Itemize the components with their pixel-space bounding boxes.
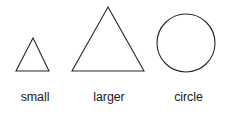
circle-label-line-1: circle xyxy=(150,90,227,105)
shapes-diagram: small triangle larger triangle circle xyxy=(0,0,227,114)
larger-triangle-shape xyxy=(72,7,144,71)
small-triangle-shape xyxy=(16,38,49,71)
circle-label: circle xyxy=(150,75,227,114)
circle-shape xyxy=(157,14,215,72)
small-triangle-label-line-1: small xyxy=(0,90,70,105)
small-triangle-label: small triangle xyxy=(0,75,70,114)
larger-triangle-label-line-1: larger xyxy=(72,90,146,105)
larger-triangle-label: larger triangle xyxy=(72,75,146,114)
